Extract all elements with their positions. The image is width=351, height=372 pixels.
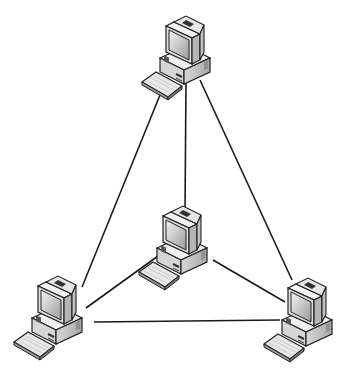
network-nodes [14, 16, 332, 362]
link-top-bottom-right [200, 80, 292, 280]
link-bottom-left-bottom-right [94, 320, 280, 322]
computer-icon-center [139, 206, 207, 290]
link-top-bottom-left [82, 95, 160, 287]
network-links [82, 80, 292, 322]
computer-icon-top [142, 16, 210, 100]
network-diagram [0, 0, 351, 372]
computer-icon-bottom-left [14, 276, 82, 360]
link-center-bottom-right [213, 260, 285, 302]
link-center-bottom-left [86, 256, 158, 308]
link-top-center [185, 80, 186, 213]
